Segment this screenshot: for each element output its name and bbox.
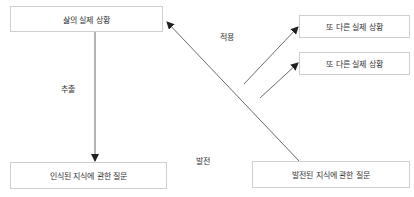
developed-question-label: 발전된 지식에 관한 질문: [292, 169, 370, 180]
apply-arrow-2: [260, 63, 298, 98]
other-situation-node-1: 또 다른 실제 상황: [299, 15, 410, 38]
developed-question-node: 발전된 지식에 관한 질문: [252, 161, 410, 188]
other-situation-node-2: 또 다른 실제 상황: [299, 52, 410, 75]
recognized-question-node: 인식된 지식에 관한 질문: [10, 162, 167, 189]
develop-arrow: [167, 22, 300, 162]
real-situation-label: 삶의 실제 상황: [63, 14, 110, 25]
develop-label: 발전: [196, 155, 210, 166]
recognized-question-label: 인식된 지식에 관한 질문: [50, 170, 128, 181]
apply-arrow-1: [244, 27, 298, 84]
other-situation-label-2: 또 다른 실제 상황: [326, 58, 383, 69]
extract-label: 추출: [61, 83, 75, 94]
other-situation-label-1: 또 다른 실제 상황: [326, 21, 383, 32]
apply-label: 적용: [220, 31, 234, 42]
real-situation-node: 삶의 실제 상황: [10, 6, 163, 32]
